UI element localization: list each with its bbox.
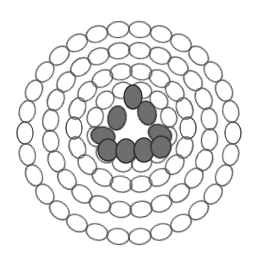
- outer-ring-ellipse: [17, 142, 37, 167]
- third-ring-ellipse: [66, 117, 82, 139]
- shaded-ellipse: [106, 105, 128, 132]
- third-ring-ellipse: [89, 165, 116, 190]
- outer-ring-ellipse: [106, 227, 130, 245]
- outer-ring-ellipse: [17, 99, 37, 124]
- second-ring-ellipse: [128, 41, 152, 60]
- second-ring-ellipse: [85, 45, 112, 68]
- outer-ring-ellipse: [46, 42, 73, 69]
- outer-ring-ellipse: [221, 142, 241, 167]
- second-ring-ellipse: [181, 165, 207, 192]
- second-ring-ellipse: [200, 128, 219, 152]
- outer-ring-ellipse: [106, 20, 130, 38]
- outer-ring-ellipse: [225, 122, 241, 144]
- second-ring-ellipse: [165, 53, 192, 79]
- second-ring-ellipse: [45, 148, 68, 175]
- second-ring-ellipse: [147, 44, 173, 67]
- second-ring-ellipse: [193, 147, 216, 173]
- outer-ring-ellipse: [200, 180, 226, 207]
- second-ring-ellipse: [200, 107, 219, 131]
- outer-ring-ellipse: [221, 99, 241, 124]
- second-ring-ellipse: [192, 85, 215, 112]
- outer-ring-ellipse: [17, 122, 33, 144]
- outline-ellipse-rings: [17, 20, 241, 245]
- second-ring-ellipse: [129, 200, 153, 219]
- third-ring-ellipse: [146, 165, 173, 190]
- outer-ring-ellipse: [46, 197, 73, 224]
- outer-ring-ellipse: [185, 197, 212, 224]
- ellipse-drawing: [0, 0, 257, 260]
- second-ring-ellipse: [87, 193, 113, 216]
- second-ring-ellipse: [67, 54, 94, 80]
- outer-ring-ellipse: [185, 42, 212, 69]
- outer-ring-ellipse: [128, 227, 152, 245]
- second-ring-ellipse: [44, 87, 67, 113]
- second-ring-ellipse: [108, 200, 132, 219]
- second-ring-ellipse: [41, 108, 60, 132]
- third-ring-ellipse: [180, 117, 196, 139]
- third-ring-ellipse: [89, 66, 116, 91]
- second-ring-ellipse: [54, 166, 80, 193]
- second-ring-ellipse: [41, 129, 60, 153]
- second-ring-ellipse: [53, 68, 79, 95]
- second-ring-ellipse: [107, 41, 131, 60]
- second-ring-ellipse: [68, 181, 95, 207]
- outer-ring-ellipse: [128, 20, 152, 38]
- shaded-center-cluster: [90, 85, 175, 163]
- shaded-ellipse: [116, 139, 136, 163]
- outer-ring-ellipse: [200, 58, 226, 85]
- outer-ring-ellipse: [32, 180, 58, 207]
- outer-ring-ellipse: [32, 58, 58, 85]
- second-ring-ellipse: [166, 180, 193, 206]
- shaded-ellipse: [98, 139, 118, 161]
- second-ring-ellipse: [148, 192, 175, 215]
